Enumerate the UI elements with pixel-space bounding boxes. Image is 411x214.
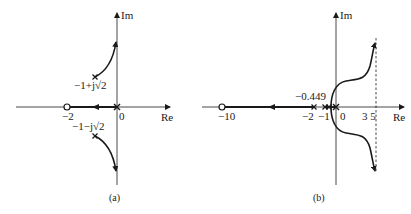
origin-label: 0 <box>340 111 346 122</box>
upper-branch <box>331 43 375 107</box>
panel-b-caption: (b) <box>313 193 325 203</box>
upper-pole-label: −1+j√2 <box>74 80 107 91</box>
zero-label: −2 <box>62 111 74 122</box>
asymptote-label: 3 5 <box>362 111 376 122</box>
breakaway-label: −0.449 <box>295 91 326 102</box>
pole-marker-icon <box>93 134 98 139</box>
lower-pole-label: −1−j√2 <box>72 121 105 132</box>
origin-label: 0 <box>119 111 125 122</box>
lower-branch <box>95 136 116 171</box>
root-locus-figure <box>0 0 411 214</box>
locus-arrow-icon <box>92 104 99 110</box>
panel-a-plot <box>16 13 170 185</box>
upper-branch <box>95 42 116 77</box>
im-axis-label: Im <box>121 10 133 21</box>
tick-minus2-label: −2 <box>302 111 314 122</box>
panel-a-caption: (a) <box>109 193 120 203</box>
locus-arrow-icon <box>268 104 275 110</box>
zero-label: −10 <box>218 111 235 122</box>
re-axis-label: Re <box>393 112 405 123</box>
re-axis-label: Re <box>161 112 173 123</box>
im-axis-label: Im <box>340 10 352 21</box>
tick-minus1-label: −1 <box>318 111 330 122</box>
